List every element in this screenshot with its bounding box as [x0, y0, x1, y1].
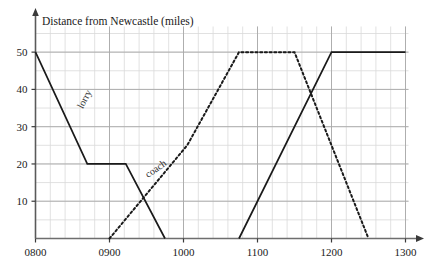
- coach-label: coach: [143, 157, 168, 179]
- minor-gridlines: [36, 27, 409, 239]
- x-axis-tick-label: 1200: [321, 246, 344, 258]
- x-axis-arrow-icon: [416, 235, 424, 242]
- x-axis-tick-label: 1300: [395, 246, 418, 258]
- y-axis-tick-label: 10: [17, 195, 29, 207]
- x-axis-tick-label: 1000: [173, 246, 196, 258]
- x-axis-tick-label: 0800: [25, 246, 48, 258]
- y-axis-tick-label: 20: [17, 158, 29, 170]
- x-axis-tick-label: 0900: [99, 246, 122, 258]
- tick-labels: 1020304050080009001000110012001300: [17, 46, 418, 257]
- axis-ticks: [32, 52, 406, 242]
- chart-title: Distance from Newcastle (miles): [42, 15, 194, 28]
- major-gridlines: [36, 27, 409, 239]
- distance-time-chart: 1020304050080009001000110012001300 lorry…: [0, 0, 430, 271]
- chart-canvas: 1020304050080009001000110012001300 lorry…: [0, 0, 430, 271]
- y-axis-tick-label: 50: [17, 46, 29, 58]
- lorry-label: lorry: [75, 88, 94, 110]
- y-axis-arrow-icon: [32, 8, 39, 16]
- y-axis-tick-label: 30: [17, 121, 29, 133]
- y-axis-tick-label: 40: [17, 83, 29, 95]
- x-axis-tick-label: 1100: [247, 246, 269, 258]
